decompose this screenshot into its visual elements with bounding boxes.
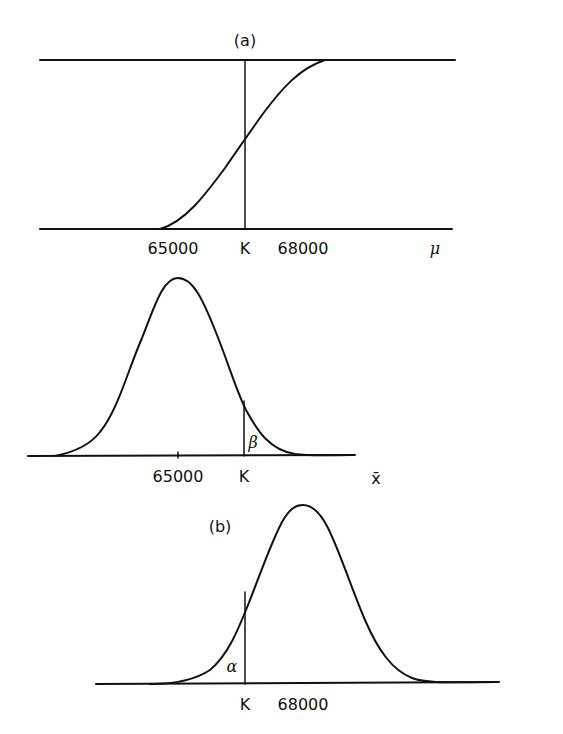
tick-label-k: K xyxy=(240,695,251,714)
tick-label-68000: 68000 xyxy=(278,239,329,258)
tick-label-65000: 65000 xyxy=(153,467,204,486)
tick-label-k: K xyxy=(240,239,251,258)
null-distribution-curve xyxy=(55,278,352,456)
tick-label-65000: 65000 xyxy=(148,239,199,258)
tick-label-k: K xyxy=(239,467,250,486)
panel-b: (b) α K 68000 xyxy=(96,505,499,714)
figure-canvas: (a) 65000 K 68000 μ β 65000 K x̄ (b) α K… xyxy=(0,0,563,734)
alpha-region-label: α xyxy=(227,657,238,676)
panel-a: (a) 65000 K 68000 μ xyxy=(40,31,455,258)
panel-middle: β 65000 K x̄ xyxy=(28,278,381,488)
beta-region-label: β xyxy=(247,433,257,452)
axis-label-xbar: x̄ xyxy=(371,469,380,488)
axis-label-mu: μ xyxy=(430,239,440,258)
alternative-distribution-curve xyxy=(150,505,495,684)
panel-b-label: (b) xyxy=(209,517,232,536)
tick-label-68000: 68000 xyxy=(278,695,329,714)
oc-curve xyxy=(160,60,325,229)
panel-a-label: (a) xyxy=(234,31,256,50)
